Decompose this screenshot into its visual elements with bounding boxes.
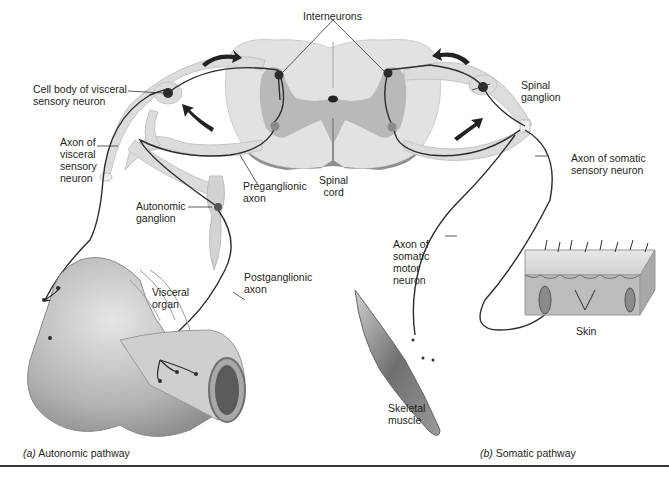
label-interneurons: Interneurons xyxy=(303,10,362,22)
left-preganglionic-cell-body xyxy=(271,122,280,131)
right-interneuron-body xyxy=(384,69,393,78)
caption-a-text: Autonomic pathway xyxy=(36,447,130,459)
right-motor-cell-body xyxy=(388,123,397,132)
somatic-sensory-cell-body xyxy=(478,82,488,92)
visceral-organ-intestine xyxy=(28,258,246,437)
skin-block xyxy=(525,240,655,315)
caption-b-letter: (b) xyxy=(480,447,493,459)
label-cell-body-visceral-sensory-neuron: Cell body of visceral sensory neuron xyxy=(33,83,127,107)
pathway-illustration xyxy=(0,0,669,484)
left-interneuron-body xyxy=(275,71,284,80)
label-autonomic-ganglion: Autonomic ganglion xyxy=(136,200,186,224)
label-postganglionic-axon: Postganglionic axon xyxy=(244,271,312,295)
label-spinal-ganglion: Spinal ganglion xyxy=(521,79,561,103)
label-axon-somatic-sensory-neuron: Axon of somatic sensory neuron xyxy=(571,152,646,176)
caption-somatic-pathway: (b) Somatic pathway xyxy=(480,447,576,459)
label-spinal-cord: Spinal cord xyxy=(319,174,348,198)
visceral-sensory-cell-body xyxy=(163,88,173,98)
label-visceral-organ: Visceral organ xyxy=(152,286,189,310)
label-axon-somatic-motor-neuron: Axon of somatic motor neuron xyxy=(393,238,429,286)
label-skin: Skin xyxy=(576,325,596,337)
bottom-divider xyxy=(0,465,669,467)
caption-a-letter: (a) xyxy=(23,447,36,459)
label-preganglionic-axon: Preganglionic axon xyxy=(243,180,307,204)
autonomic-ganglion-cell-body xyxy=(214,203,222,211)
caption-autonomic-pathway: (a) Autonomic pathway xyxy=(23,447,130,459)
label-skeletal-muscle: Skeletal muscle xyxy=(388,402,425,426)
label-axon-visceral-sensory-neuron: Axon of visceral sensory neuron xyxy=(60,136,97,184)
caption-b-text: Somatic pathway xyxy=(493,447,576,459)
